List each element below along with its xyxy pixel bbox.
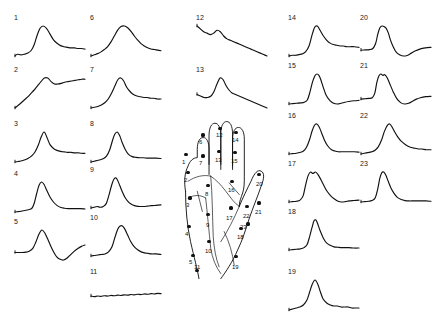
waveform-label-13: 13 [196, 66, 204, 73]
waveform-label-18: 18 [288, 208, 296, 215]
waveform-trace-20 [360, 23, 432, 59]
waveform-trace-5 [14, 227, 86, 263]
waveform-label-8: 8 [90, 120, 94, 127]
electrode-site-dot-15[interactable] [233, 151, 236, 154]
waveform-label-15: 15 [288, 62, 296, 69]
waveform-label-12: 12 [196, 14, 204, 21]
waveform-trace-14 [288, 23, 360, 59]
electrode-site-dot-10[interactable] [207, 240, 210, 243]
waveform-label-14: 14 [288, 14, 296, 21]
waveform-panel-1: 1 [14, 14, 86, 50]
waveform-label-2: 2 [14, 66, 18, 73]
waveform-label-4: 4 [14, 170, 18, 177]
waveform-panel-18: 18 [288, 208, 360, 244]
electrode-site-label-13: 13 [215, 157, 222, 163]
waveform-trace-12 [196, 23, 268, 59]
electrode-site-dot-8[interactable] [206, 184, 209, 187]
waveform-panel-11: 11 [90, 268, 162, 304]
waveform-label-20: 20 [360, 14, 368, 21]
waveform-trace-19 [288, 277, 360, 312]
waveform-trace-17 [288, 169, 360, 205]
electrode-site-dot-20[interactable] [257, 173, 260, 176]
waveform-panel-9: 9 [90, 166, 162, 202]
waveform-panel-13: 13 [196, 66, 268, 102]
waveform-panel-23: 23 [360, 160, 432, 196]
electrode-site-label-12: 12 [216, 132, 223, 138]
electrode-site-label-7: 7 [199, 160, 202, 166]
waveform-trace-3 [14, 129, 86, 165]
electrode-site-dot-6[interactable] [201, 133, 204, 136]
waveform-panel-6: 6 [90, 14, 162, 50]
waveform-label-5: 5 [14, 218, 18, 225]
electrode-site-dot-16[interactable] [230, 180, 233, 183]
waveform-trace-16 [288, 121, 360, 157]
waveform-trace-9 [90, 175, 162, 211]
waveform-panel-10: 10 [90, 214, 162, 250]
electrode-site-label-20: 20 [256, 181, 263, 187]
electrode-site-dot-17[interactable] [229, 206, 232, 209]
waveform-trace-7 [90, 75, 162, 111]
electrode-site-dot-22[interactable] [245, 205, 248, 208]
waveform-trace-21 [360, 71, 432, 107]
waveform-panel-20: 20 [360, 14, 432, 50]
electrode-site-label-10: 10 [205, 248, 212, 254]
waveform-trace-22 [360, 121, 432, 157]
waveform-label-7: 7 [90, 66, 94, 73]
waveform-trace-18 [288, 217, 360, 253]
electrode-site-label-8: 8 [205, 191, 208, 197]
waveform-label-9: 9 [90, 166, 94, 173]
waveform-panel-21: 21 [360, 62, 432, 98]
electrode-site-label-4: 4 [185, 231, 188, 237]
electrode-site-dot-1[interactable] [184, 153, 187, 156]
waveform-label-3: 3 [14, 120, 18, 127]
waveform-label-6: 6 [90, 14, 94, 21]
waveform-panel-17: 17 [288, 160, 360, 196]
electrode-site-dot-3[interactable] [188, 196, 191, 199]
hand-outline-svg [168, 114, 282, 282]
evoked-potential-hand-figure: 1234567891011121314151617181920212223123… [0, 0, 440, 312]
waveform-label-10: 10 [90, 214, 98, 221]
waveform-panel-5: 5 [14, 218, 86, 254]
electrode-site-dot-4[interactable] [187, 225, 190, 228]
waveform-label-16: 16 [288, 112, 296, 119]
hand-diagram: 1234567891011121314151617181920212223 [168, 114, 282, 282]
waveform-trace-15 [288, 71, 360, 107]
electrode-site-dot-12[interactable] [218, 127, 221, 130]
electrode-site-label-1: 1 [182, 159, 185, 165]
waveform-trace-2 [14, 75, 86, 111]
electrode-site-label-15: 15 [231, 158, 238, 164]
waveform-panel-15: 15 [288, 62, 360, 98]
electrode-site-label-9: 9 [206, 222, 209, 228]
waveform-trace-8 [90, 129, 162, 165]
waveform-panel-12: 12 [196, 14, 268, 50]
electrode-site-label-16: 16 [228, 187, 235, 193]
waveform-trace-13 [196, 75, 268, 111]
electrode-site-dot-5[interactable] [191, 254, 194, 257]
electrode-site-dot-7[interactable] [201, 154, 204, 157]
electrode-site-label-19: 19 [232, 264, 239, 270]
waveform-panel-16: 16 [288, 112, 360, 148]
electrode-site-label-23: 23 [240, 224, 247, 230]
waveform-label-11: 11 [90, 268, 97, 275]
waveform-label-22: 22 [360, 112, 368, 119]
waveform-trace-4 [14, 179, 86, 215]
waveform-panel-14: 14 [288, 14, 360, 50]
waveform-label-1: 1 [14, 14, 18, 21]
electrode-site-label-3: 3 [186, 202, 189, 208]
waveform-panel-19: 19 [288, 268, 360, 304]
waveform-panel-8: 8 [90, 120, 162, 156]
waveform-label-17: 17 [288, 160, 296, 167]
electrode-site-label-2: 2 [184, 177, 187, 183]
electrode-site-label-21: 21 [255, 209, 262, 215]
electrode-site-label-5: 5 [189, 259, 192, 265]
electrode-site-dot-14[interactable] [234, 131, 237, 134]
electrode-site-label-18: 18 [237, 234, 244, 240]
electrode-site-label-6: 6 [199, 139, 202, 145]
electrode-site-label-17: 17 [226, 215, 233, 221]
electrode-site-label-22: 22 [243, 213, 250, 219]
waveform-trace-1 [14, 23, 86, 59]
waveform-panel-7: 7 [90, 66, 162, 102]
waveform-trace-11 [90, 277, 162, 312]
electrode-site-dot-21[interactable] [257, 201, 260, 204]
waveform-label-21: 21 [360, 62, 368, 69]
